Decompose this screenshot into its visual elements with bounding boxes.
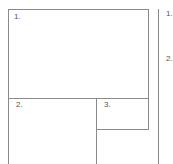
panel-1-right-border: [148, 9, 149, 130]
panel-2-label: 2.: [16, 101, 23, 109]
side-label-1: 1.: [166, 10, 173, 18]
side-label-2: 2.: [166, 55, 173, 63]
panel-1-left-border: [8, 9, 9, 164]
side-column-line: [158, 9, 159, 164]
panel-3-bottom-border: [96, 129, 149, 130]
panel-2-3-divider-vertical: [96, 98, 97, 164]
panel-divider-horizontal: [8, 98, 149, 99]
panel-1-top-border: [8, 9, 149, 10]
panel-1-label: 1.: [14, 13, 21, 21]
panel-3-label: 3.: [104, 101, 111, 109]
